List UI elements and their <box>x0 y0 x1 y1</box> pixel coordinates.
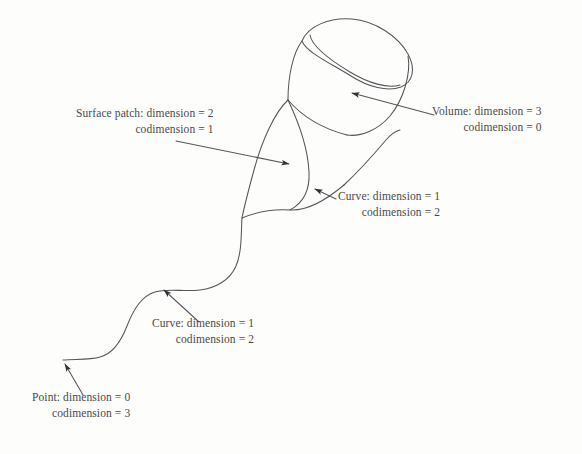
label-curve-lower: Curve: dimension = 1 codimension = 2 <box>152 316 254 347</box>
geometry-diagram <box>0 0 582 454</box>
arrow-surface-patch <box>176 141 289 164</box>
curve-upper-segment <box>344 130 400 185</box>
label-volume: Volume: dimension = 3 codimension = 0 <box>432 104 542 135</box>
label-curve-upper: Curve: dimension = 1 codimension = 2 <box>338 189 440 220</box>
label-surface-patch-line2: codimension = 1 <box>76 122 214 138</box>
cylinder-bottom-edge <box>288 100 347 135</box>
label-curve-upper-line1: Curve: dimension = 1 <box>338 189 440 205</box>
label-volume-line1: Volume: dimension = 3 <box>432 104 542 120</box>
label-volume-line2: codimension = 0 <box>432 120 542 136</box>
label-surface-patch-line1: Surface patch: dimension = 2 <box>76 106 214 122</box>
label-surface-patch: Surface patch: dimension = 2 codimension… <box>76 106 214 137</box>
cylinder-left-wall <box>288 41 302 100</box>
label-curve-upper-line2: codimension = 2 <box>338 205 440 221</box>
cylinder-right-wall <box>347 56 409 135</box>
label-point-line2: codimension = 3 <box>32 406 130 422</box>
cone-bottom-boundary <box>242 185 344 218</box>
cylinder-top-rim-outer <box>302 19 412 89</box>
figure-canvas: Surface patch: dimension = 2 codimension… <box>0 0 582 454</box>
label-curve-lower-line1: Curve: dimension = 1 <box>152 316 254 332</box>
label-point-line1: Point: dimension = 0 <box>32 390 130 406</box>
label-curve-lower-line2: codimension = 2 <box>152 332 254 348</box>
label-point: Point: dimension = 0 codimension = 3 <box>32 390 130 421</box>
